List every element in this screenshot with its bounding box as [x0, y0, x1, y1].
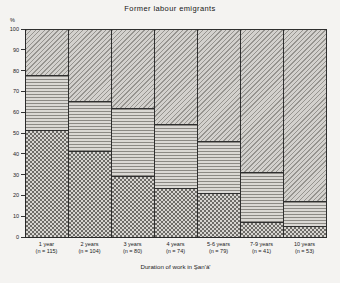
top-segment-diagonal-hatch: [284, 30, 326, 202]
y-tick-label: 0: [16, 234, 19, 240]
bar-5-6-years: [198, 29, 241, 237]
y-tick-label: 40: [13, 151, 19, 157]
x-label-n-count: (n = 115): [25, 248, 68, 255]
x-label-category: 2 years: [68, 241, 111, 248]
y-tick-label: 20: [13, 192, 19, 198]
x-axis-labels: 1 year(n = 115)2 years(n = 104)3 years(n…: [25, 241, 326, 255]
x-label-3-years: 3 years(n = 80): [111, 241, 154, 255]
x-label-category: 4 years: [154, 241, 197, 248]
bottom-segment-checkerboard: [112, 177, 154, 237]
x-label-n-count: (n = 41): [240, 248, 283, 255]
y-axis: 0102030405060708090100: [0, 29, 25, 237]
y-axis-unit-label: %: [10, 17, 15, 23]
y-tick-label: 70: [13, 88, 19, 94]
middle-segment-horizontal-lines: [284, 202, 326, 227]
x-label-5-6-years: 5-6 years(n = 79): [197, 241, 240, 255]
plot-area: [25, 29, 327, 238]
y-tick-label: 10: [13, 213, 19, 219]
top-segment-diagonal-hatch: [69, 30, 111, 102]
y-tick-label: 50: [13, 130, 19, 136]
bar-10-years: [284, 29, 327, 237]
bottom-segment-checkerboard: [155, 189, 197, 237]
x-label-category: 5-6 years: [197, 241, 240, 248]
x-label-4-years: 4 years(n = 74): [154, 241, 197, 255]
x-label-category: 7-9 years: [240, 241, 283, 248]
x-label-1-year: 1 year(n = 115): [25, 241, 68, 255]
x-label-category: 3 years: [111, 241, 154, 248]
middle-segment-horizontal-lines: [26, 76, 68, 132]
top-segment-diagonal-hatch: [26, 30, 68, 76]
x-axis-title: Duration of work in Şan'ā': [25, 263, 326, 270]
x-label-n-count: (n = 80): [111, 248, 154, 255]
middle-segment-horizontal-lines: [198, 142, 240, 194]
middle-segment-horizontal-lines: [241, 173, 283, 223]
top-segment-diagonal-hatch: [241, 30, 283, 173]
bottom-segment-checkerboard: [198, 194, 240, 237]
y-tick-label: 80: [13, 68, 19, 74]
top-segment-diagonal-hatch: [112, 30, 154, 109]
bottom-segment-checkerboard: [69, 152, 111, 237]
bar-2-years: [69, 29, 112, 237]
x-label-7-9-years: 7-9 years(n = 41): [240, 241, 283, 255]
bar-1-year: [26, 29, 69, 237]
top-segment-diagonal-hatch: [198, 30, 240, 142]
x-label-category: 1 year: [25, 241, 68, 248]
y-tick-label: 90: [13, 47, 19, 53]
x-label-n-count: (n = 74): [154, 248, 197, 255]
bottom-segment-checkerboard: [284, 227, 326, 237]
x-label-2-years: 2 years(n = 104): [68, 241, 111, 255]
bottom-segment-checkerboard: [26, 131, 68, 237]
x-label-n-count: (n = 104): [68, 248, 111, 255]
top-segment-diagonal-hatch: [155, 30, 197, 125]
chart-title: Former labour emigrants: [0, 4, 340, 13]
bar-7-9-years: [241, 29, 284, 237]
figure: Former labour emigrants % 01020304050607…: [0, 0, 340, 283]
middle-segment-horizontal-lines: [69, 102, 111, 152]
bar-4-years: [155, 29, 198, 237]
x-label-n-count: (n = 53): [283, 248, 326, 255]
bottom-segment-checkerboard: [241, 223, 283, 237]
middle-segment-horizontal-lines: [112, 109, 154, 177]
middle-segment-horizontal-lines: [155, 125, 197, 189]
y-tick-label: 30: [13, 172, 19, 178]
y-tick-label: 60: [13, 109, 19, 115]
x-label-n-count: (n = 79): [197, 248, 240, 255]
x-label-10-years: 10 years(n = 53): [283, 241, 326, 255]
y-tick-label: 100: [10, 26, 19, 32]
x-label-category: 10 years: [283, 241, 326, 248]
bar-3-years: [112, 29, 155, 237]
